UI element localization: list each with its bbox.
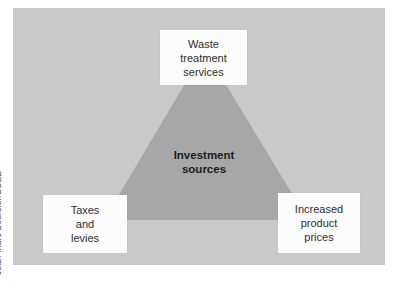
node-label-line: Increased [278, 202, 360, 216]
node-increased-product-prices: Increased product prices [278, 193, 360, 253]
node-label-line: prices [278, 230, 360, 244]
node-label-line: and [43, 217, 127, 231]
node-label-line: Waste [160, 37, 247, 51]
diagram-panel: Investment sources Waste treatment servi… [13, 8, 385, 265]
center-label-line: sources [139, 162, 269, 176]
center-label-line: Investment [139, 148, 269, 162]
node-label-line: levies [43, 231, 127, 245]
node-label-line: services [160, 65, 247, 79]
node-label-line: treatment [160, 51, 247, 65]
node-waste-treatment-services: Waste treatment services [160, 30, 247, 85]
node-taxes-and-levies: Taxes and levies [43, 195, 127, 253]
node-label-line: Taxes [43, 203, 127, 217]
node-label-line: product [278, 216, 360, 230]
figure-canvas: Investment sources Waste treatment servi… [0, 0, 400, 281]
center-label-investment-sources: Investment sources [139, 148, 269, 176]
photo-credit: Jean-Marc Boursier/SUEZ [0, 171, 3, 275]
